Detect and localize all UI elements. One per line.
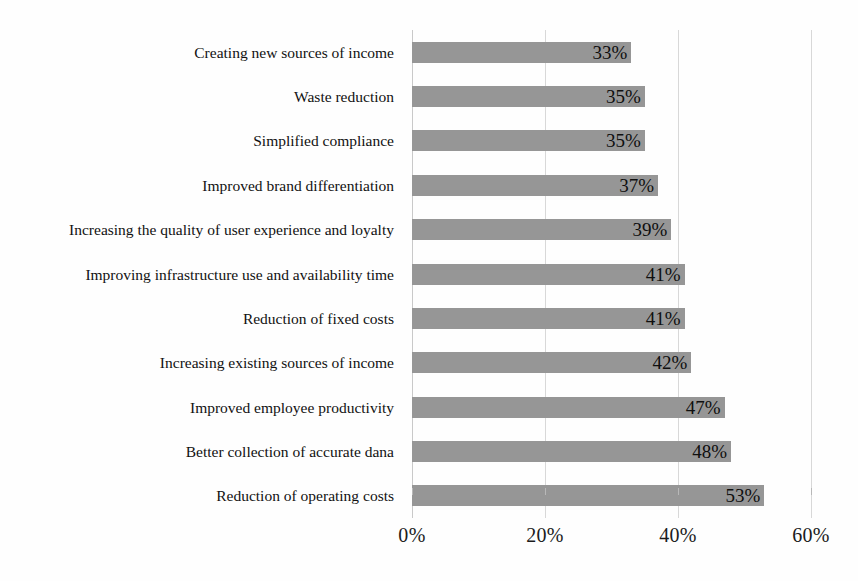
bar-value-label: 37% <box>606 175 654 196</box>
plot-area: 33%35%35%37%39%41%41%42%47%48%53% <box>412 30 811 518</box>
bar-row: 35% <box>412 86 811 107</box>
tick-mark-0% <box>412 488 413 495</box>
bar-row: 48% <box>412 441 811 462</box>
category-label: Improved employee productivity <box>0 397 394 418</box>
x-tick-label: 60% <box>792 524 830 547</box>
bar-row: 37% <box>412 175 811 196</box>
tick-mark-60% <box>811 488 812 495</box>
category-label: Improving infrastructure use and availab… <box>0 264 394 285</box>
category-label: Reduction of operating costs <box>0 485 394 506</box>
bar-chart: Creating new sources of incomeWaste redu… <box>0 0 858 581</box>
category-label: Reduction of fixed costs <box>0 308 394 329</box>
bar-row: 53% <box>412 485 811 506</box>
category-label: Improved brand differentiation <box>0 175 394 196</box>
bar-row: 35% <box>412 130 811 151</box>
bar-value-label: 39% <box>619 219 667 240</box>
bar-value-label: 42% <box>639 352 687 373</box>
category-label: Simplified compliance <box>0 130 394 151</box>
bar-value-label: 41% <box>633 308 681 329</box>
tick-mark-20% <box>545 488 546 495</box>
bar-row: 47% <box>412 397 811 418</box>
x-tick-label: 0% <box>398 524 425 547</box>
bar-value-label: 33% <box>579 42 627 63</box>
bar-row: 39% <box>412 219 811 240</box>
x-tick-label: 40% <box>659 524 697 547</box>
category-label: Waste reduction <box>0 86 394 107</box>
bar-row: 33% <box>412 42 811 63</box>
bar-value-label: 35% <box>593 130 641 151</box>
bar-row: 41% <box>412 308 811 329</box>
category-label: Increasing the quality of user experienc… <box>0 219 394 240</box>
category-label: Better collection of accurate dana <box>0 441 394 462</box>
bar-value-label: 48% <box>679 441 727 462</box>
tick-mark-40% <box>678 488 679 495</box>
category-label: Increasing existing sources of income <box>0 352 394 373</box>
category-label: Creating new sources of income <box>0 42 394 63</box>
bar-row: 42% <box>412 352 811 373</box>
bar-value-label: 53% <box>712 485 760 506</box>
bar-row: 41% <box>412 264 811 285</box>
bar-value-label: 35% <box>593 86 641 107</box>
gridline-60% <box>811 30 812 518</box>
category-axis-labels: Creating new sources of incomeWaste redu… <box>0 30 404 518</box>
bar-value-label: 41% <box>633 264 681 285</box>
bar-value-label: 47% <box>673 397 721 418</box>
x-tick-label: 20% <box>526 524 564 547</box>
